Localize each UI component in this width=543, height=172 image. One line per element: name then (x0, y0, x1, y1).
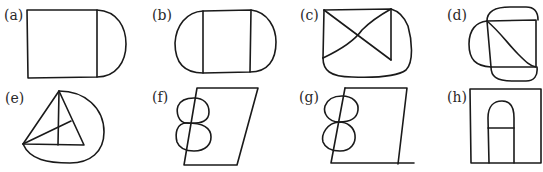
panel-f: (f) (152, 88, 258, 165)
figure-canvas: (a) (b) (c) (d) (0, 0, 543, 172)
panel-label-e: (e) (5, 90, 24, 106)
panel-h: (h) (447, 89, 541, 163)
panel-d: (d) (447, 7, 538, 81)
panel-label-c: (c) (300, 7, 319, 23)
panel-label-a: (a) (4, 7, 23, 23)
line-drawings: (a) (b) (c) (d) (0, 0, 543, 172)
panel-a: (a) (4, 7, 126, 78)
panel-label-g: (g) (299, 89, 319, 105)
panel-b: (b) (152, 7, 276, 73)
panel-label-h: (h) (447, 89, 467, 105)
panel-label-d: (d) (447, 7, 467, 23)
panel-e: (e) (5, 90, 104, 163)
panel-g: (g) (299, 88, 414, 164)
panel-label-f: (f) (152, 89, 168, 105)
panel-label-b: (b) (152, 7, 172, 23)
panel-c: (c) (300, 7, 412, 77)
